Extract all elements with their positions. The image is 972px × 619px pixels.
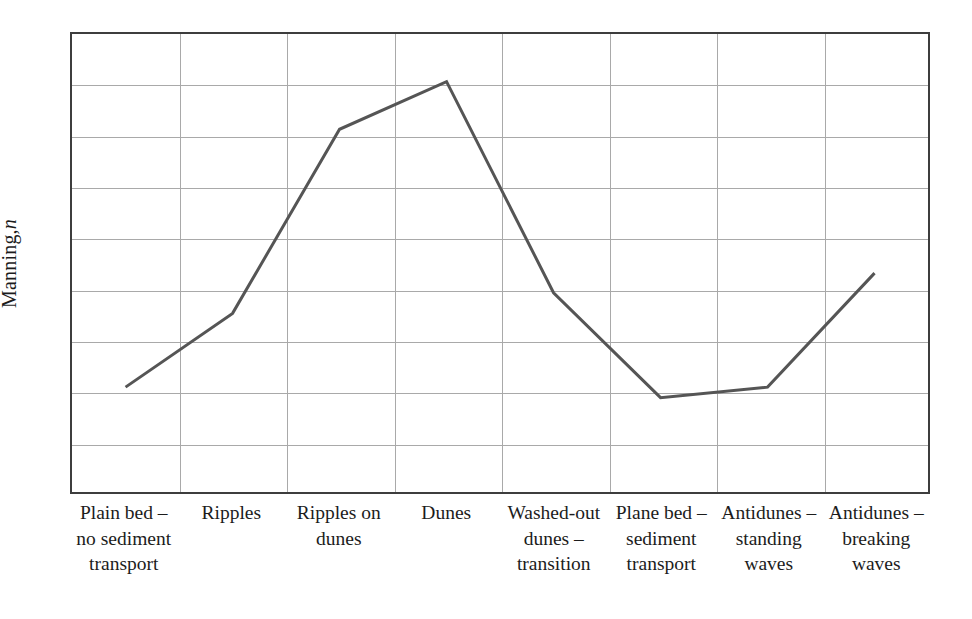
x-axis-category-label-line: Washed-out	[501, 500, 607, 526]
x-axis-category-label-line: Ripples on	[286, 500, 392, 526]
x-axis-category-label: Plane bed –sedimenttransport	[608, 500, 716, 610]
x-axis-category-label-line: no sediment	[71, 526, 177, 552]
x-axis-category-label-line: Plain bed –	[71, 500, 177, 526]
x-axis-category-label-line: Plane bed –	[609, 500, 715, 526]
data-line-manning-n	[126, 82, 875, 398]
x-axis-category-label-line: transport	[609, 551, 715, 577]
x-axis-category-label-line: transport	[71, 551, 177, 577]
x-axis-category-labels: Plain bed –no sedimenttransportRipplesRi…	[70, 500, 930, 610]
y-axis-label-symbol: n	[0, 218, 20, 228]
x-axis-category-label: Antidunes –breakingwaves	[823, 500, 931, 610]
x-axis-category-label-line: Antidunes –	[824, 500, 930, 526]
x-axis-category-label: Ripples	[178, 500, 286, 610]
x-axis-category-label-line: waves	[716, 551, 822, 577]
y-axis-label: Manning,n	[0, 218, 21, 307]
x-axis-category-label-line: waves	[824, 551, 930, 577]
plot-area	[70, 32, 930, 494]
x-axis-category-label: Dunes	[393, 500, 501, 610]
x-axis-category-label: Plain bed –no sedimenttransport	[70, 500, 178, 610]
y-axis-label-text: Manning,	[0, 229, 20, 308]
x-axis-category-label-line: dunes	[286, 526, 392, 552]
chart-page: Manning,n Plain bed –no sedimenttranspor…	[0, 0, 972, 619]
x-axis-category-label-line: Antidunes –	[716, 500, 822, 526]
y-axis-label-container: Manning,n	[0, 0, 70, 526]
x-axis-category-label-line: standing	[716, 526, 822, 552]
x-axis-category-label-line: sediment	[609, 526, 715, 552]
x-axis-category-label-line: Dunes	[394, 500, 500, 526]
x-axis-category-label-line: transition	[501, 551, 607, 577]
x-axis-category-label: Washed-outdunes –transition	[500, 500, 608, 610]
x-axis-category-label-line: dunes –	[501, 526, 607, 552]
x-axis-category-label-line: Ripples	[179, 500, 285, 526]
series-layer	[72, 34, 928, 492]
x-axis-category-label: Antidunes –standingwaves	[715, 500, 823, 610]
x-axis-category-label-line: breaking	[824, 526, 930, 552]
x-axis-category-label: Ripples ondunes	[285, 500, 393, 610]
